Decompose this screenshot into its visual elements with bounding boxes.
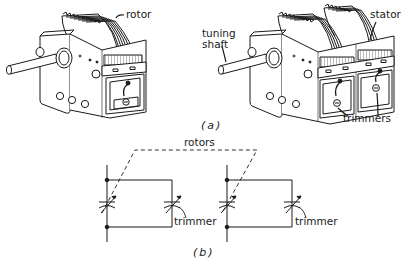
rotor-label: rotor xyxy=(126,9,151,20)
rotors-label: rotors xyxy=(184,137,215,148)
single-gang-capacitor xyxy=(7,12,147,118)
left-tuned-circuit xyxy=(99,165,186,242)
stator-stack xyxy=(102,55,146,76)
tuning-schematic xyxy=(99,150,306,242)
tuning-shaft-label: tuning shaft xyxy=(202,28,236,50)
trimmer-housing xyxy=(106,74,144,114)
part-a-caption: (a) xyxy=(201,120,222,131)
right-tuned-circuit xyxy=(219,165,306,242)
dual-gang-capacitor xyxy=(219,4,395,124)
part-b-caption: (b) xyxy=(193,247,215,258)
trimmers-label: trimmers xyxy=(343,113,391,124)
front-plate xyxy=(40,34,70,113)
rotor-gang-link xyxy=(102,150,257,213)
trimmer-right-label: trimmer xyxy=(295,216,338,227)
rotor-leader xyxy=(116,15,124,18)
stator-label: stator xyxy=(370,9,401,20)
trimmer-left-label: trimmer xyxy=(174,216,217,227)
